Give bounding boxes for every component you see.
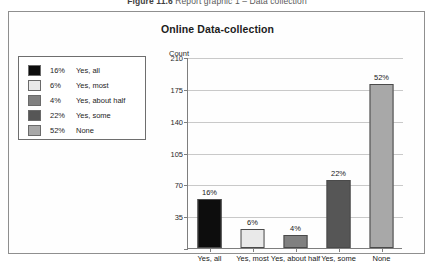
bar-series: 16%Yes, all6%Yes, most4%Yes, about half2… bbox=[188, 58, 402, 248]
legend-swatch-yes-some bbox=[28, 110, 41, 121]
legend-swatch-yes-most bbox=[28, 80, 41, 91]
x-axis-tick-label: Yes, about half bbox=[271, 254, 320, 263]
legend-item: 22% Yes, some bbox=[28, 108, 145, 122]
bar[interactable] bbox=[240, 229, 265, 248]
bar-value-label: 6% bbox=[247, 218, 258, 227]
bar-group: 4%Yes, about half bbox=[274, 58, 317, 248]
x-axis-tick-label: None bbox=[373, 254, 391, 263]
legend-label: Yes, all bbox=[76, 66, 100, 75]
y-axis-tick bbox=[184, 249, 188, 250]
legend-item: 4% Yes, about half bbox=[28, 93, 145, 107]
bar-value-label: 22% bbox=[331, 169, 346, 178]
y-axis-tick-label: 175 bbox=[170, 85, 183, 94]
bar-value-label: 52% bbox=[374, 73, 389, 82]
bar-value-label: 4% bbox=[290, 224, 301, 233]
y-axis-tick-label: 70 bbox=[175, 181, 183, 190]
figure-frame: Online Data-collection 16% Yes, all 6% Y… bbox=[8, 11, 425, 254]
x-axis-tick bbox=[382, 248, 383, 252]
chart-title: Online Data-collection bbox=[161, 23, 274, 35]
bar-value-label: 16% bbox=[202, 188, 217, 197]
bar-group: 22%Yes, some bbox=[317, 58, 360, 248]
legend-percent: 16% bbox=[50, 66, 76, 75]
bar[interactable] bbox=[326, 180, 351, 248]
bar[interactable] bbox=[197, 199, 222, 248]
figure-caption-label: Figure 11.6 bbox=[127, 0, 173, 6]
figure-caption: Figure 11.6 Report graphic 1 – Data coll… bbox=[0, 0, 434, 7]
legend-item: 16% Yes, all bbox=[28, 63, 145, 77]
legend-swatch-none bbox=[28, 125, 41, 136]
bar-group: 6%Yes, most bbox=[231, 58, 274, 248]
x-axis-tick-label: Yes, most bbox=[236, 254, 269, 263]
legend-label: Yes, some bbox=[76, 111, 111, 120]
y-axis-tick-label: 140 bbox=[170, 117, 183, 126]
bar-group: 16%Yes, all bbox=[188, 58, 231, 248]
bar-group: 52%None bbox=[360, 58, 403, 248]
legend-percent: 4% bbox=[50, 96, 76, 105]
y-axis-tick-label: 35 bbox=[175, 213, 183, 222]
x-axis-tick bbox=[253, 248, 254, 252]
bar[interactable] bbox=[283, 235, 308, 248]
figure-caption-text: Report graphic 1 – Data collection bbox=[175, 0, 306, 6]
x-axis-tick bbox=[339, 248, 340, 252]
legend-item: 52% None bbox=[28, 123, 145, 137]
x-axis-tick-label: Yes, some bbox=[321, 254, 356, 263]
legend-swatch-yes-about-half bbox=[28, 95, 41, 106]
legend-label: Yes, most bbox=[76, 81, 109, 90]
bar[interactable] bbox=[369, 84, 394, 248]
legend-percent: 52% bbox=[50, 126, 76, 135]
x-axis-tick-label: Yes, all bbox=[198, 254, 222, 263]
legend-percent: 22% bbox=[50, 111, 76, 120]
x-axis-tick bbox=[210, 248, 211, 252]
legend-label: None bbox=[76, 126, 94, 135]
y-axis-tick-label: 105 bbox=[170, 149, 183, 158]
legend-label: Yes, about half bbox=[76, 96, 125, 105]
chart-legend: 16% Yes, all 6% Yes, most 4% Yes, about … bbox=[18, 56, 146, 140]
x-axis-tick bbox=[296, 248, 297, 252]
legend-item: 6% Yes, most bbox=[28, 78, 145, 92]
legend-percent: 6% bbox=[50, 81, 76, 90]
legend-swatch-yes-all bbox=[28, 65, 41, 76]
plot-area: 3570105140175210 16%Yes, all6%Yes, most4… bbox=[187, 58, 402, 249]
y-axis-tick-label: 210 bbox=[170, 54, 183, 63]
